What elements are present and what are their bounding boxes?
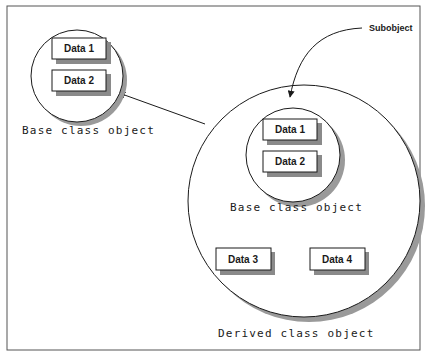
subobject-callout-label: Subobject [369,23,413,33]
derived-class-label: Derived class object [218,327,374,340]
field-label: Data 2 [64,75,94,86]
field-label: Data 1 [64,43,94,54]
subobject-label: Base class object [230,201,363,214]
base-class-label: Base class object [22,124,155,137]
field-label: Data 3 [228,254,258,265]
derived-field-data-4: Data 4 [310,248,369,275]
field-label: Data 1 [275,124,305,135]
diagram-canvas: Data 1 Data 2 Base class object Data 1 D… [0,0,428,358]
derived-field-data-3: Data 3 [216,248,275,275]
subobject-field-data-1: Data 1 [263,119,322,145]
field-label: Data 4 [322,254,352,265]
base-field-data-1: Data 1 [52,38,111,64]
base-field-data-2: Data 2 [52,70,111,96]
field-label: Data 2 [275,156,305,167]
subobject-field-data-2: Data 2 [263,151,322,177]
